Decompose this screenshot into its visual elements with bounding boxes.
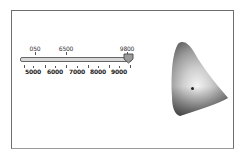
top-label: 6500 [59,45,73,52]
top-tick [35,52,36,55]
minor-tick [66,65,67,68]
top-label: 9800 [120,45,134,52]
minor-tick [130,65,131,68]
bottom-label: 7000 [69,68,85,75]
bottom-label: 6000 [47,68,63,75]
minor-tick [109,65,110,68]
minor-tick [88,65,89,68]
slider-thumb[interactable] [123,53,134,64]
white-point-marker [191,87,194,90]
top-label: 050 [30,45,41,52]
chromaticity-diagram [168,40,230,118]
top-tick [66,52,67,55]
bottom-label: 9000 [111,68,127,75]
bottom-label: 5000 [25,68,41,75]
bottom-label: 8000 [90,68,106,75]
minor-tick [45,65,46,68]
slider-track[interactable] [20,57,132,62]
